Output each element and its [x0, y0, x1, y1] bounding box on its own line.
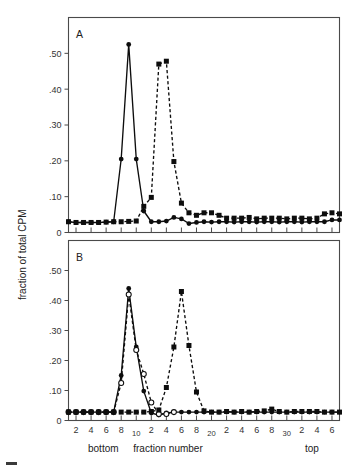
panel-b-frame — [69, 241, 340, 421]
marker-dashed-square — [66, 410, 71, 415]
marker-open-circle — [171, 410, 176, 415]
marker-dashed-square — [164, 59, 169, 64]
marker-dashed-square — [126, 219, 131, 224]
marker-dashed-square — [269, 216, 274, 221]
marker-open-circle — [164, 411, 169, 416]
marker-dashed-square — [171, 345, 176, 350]
series-line-dashed-square — [69, 292, 340, 413]
marker-solid-circle — [322, 219, 327, 224]
marker-solid-circle — [179, 216, 184, 221]
marker-solid-circle — [119, 157, 124, 162]
marker-dashed-square — [186, 343, 191, 348]
marker-dashed-square — [329, 210, 334, 215]
marker-dashed-square — [232, 410, 237, 415]
marker-dashed-square — [209, 210, 214, 215]
marker-dashed-square — [299, 409, 304, 414]
marker-solid-circle — [156, 219, 161, 224]
panel-a-y-ticks — [65, 53, 69, 232]
x-tick-label: 8 — [194, 425, 199, 435]
marker-solid-circle — [179, 410, 184, 415]
marker-dashed-square — [96, 410, 101, 415]
y-axis-title: fraction of total CPM — [17, 209, 28, 300]
x-tick-label: 8 — [119, 425, 124, 435]
series-line-solid-circle — [69, 44, 340, 223]
marker-solid-circle — [149, 219, 154, 224]
marker-dashed-square — [299, 216, 304, 221]
y-tick-label: .40 — [49, 296, 62, 306]
marker-dashed-square — [329, 410, 334, 415]
y-tick-label: .40 — [49, 85, 62, 95]
marker-solid-circle — [141, 389, 146, 394]
panel-a-series — [66, 42, 342, 226]
marker-dashed-square — [111, 410, 116, 415]
marker-dashed-square — [194, 390, 199, 395]
y-tick-label: .20 — [49, 156, 62, 166]
y-tick-label: .20 — [49, 356, 62, 366]
marker-open-circle — [119, 381, 124, 386]
marker-dashed-square — [224, 409, 229, 414]
marker-open-circle — [134, 348, 139, 353]
marker-dashed-square — [74, 410, 79, 415]
marker-dashed-square — [66, 219, 71, 224]
x-tick-label: 6 — [254, 425, 259, 435]
panel-a-x-ticks — [76, 228, 332, 233]
marker-dashed-square — [111, 219, 116, 224]
x-tick-label: 8 — [269, 425, 274, 435]
marker-dashed-square — [277, 216, 282, 221]
marker-dashed-square — [96, 220, 101, 225]
y-tick-label: .30 — [49, 120, 62, 130]
x-axis-right-annotation: top — [305, 443, 319, 454]
marker-dashed-square — [209, 410, 214, 415]
marker-dashed-square — [104, 220, 109, 225]
marker-solid-circle — [187, 410, 192, 415]
marker-dashed-square — [314, 216, 319, 221]
panel-b-x-ticks — [76, 416, 332, 421]
panel-b-x-tick-labels: 246810246820246830246 — [74, 425, 335, 438]
y-tick-label: .10 — [49, 386, 62, 396]
y-tick-label: 0 — [56, 416, 61, 426]
y-tick-label: .30 — [49, 326, 62, 336]
marker-dashed-square — [202, 408, 207, 413]
marker-dashed-square — [232, 216, 237, 221]
x-tick-label: 2 — [74, 425, 79, 435]
marker-dashed-square — [284, 410, 289, 415]
x-tick-label: 2 — [149, 425, 154, 435]
marker-dashed-square — [262, 216, 267, 221]
marker-dashed-square — [239, 216, 244, 221]
marker-dashed-square — [224, 216, 229, 221]
x-tick-label: 4 — [239, 425, 244, 435]
series-line-open-circle — [69, 295, 174, 414]
marker-open-circle — [126, 292, 131, 297]
marker-dashed-square — [156, 62, 161, 67]
marker-solid-circle — [126, 286, 131, 291]
marker-solid-circle — [330, 218, 335, 223]
marker-dashed-square — [141, 204, 146, 209]
marker-dashed-square — [81, 410, 86, 415]
x-tick-label: 4 — [164, 425, 169, 435]
y-tick-label: .50 — [49, 266, 62, 276]
marker-solid-circle — [194, 220, 199, 225]
x-tick-label: 4 — [314, 425, 319, 435]
marker-dashed-square — [307, 216, 312, 221]
marker-solid-circle — [337, 218, 342, 223]
marker-solid-circle — [194, 410, 199, 415]
x-tick-label: 10 — [132, 429, 140, 438]
marker-dashed-square — [89, 410, 94, 415]
marker-open-circle — [149, 400, 154, 405]
marker-solid-circle — [202, 219, 207, 224]
panel-b: B 0.10.20.30.40.50 246810246820246830246 — [49, 241, 342, 438]
marker-dashed-square — [247, 410, 252, 415]
panel-a: A 0.10.20.30.40.50 — [49, 18, 342, 238]
y-tick-label: .10 — [49, 192, 62, 202]
marker-solid-circle — [187, 221, 192, 226]
panel-a-frame — [69, 18, 340, 233]
marker-dashed-square — [164, 385, 169, 390]
marker-dashed-square — [314, 409, 319, 414]
marker-solid-circle — [217, 219, 222, 224]
marker-dashed-square — [194, 213, 199, 218]
marker-solid-circle — [164, 219, 169, 224]
scan-corner-artifact — [6, 462, 17, 465]
marker-dashed-square — [179, 289, 184, 294]
marker-dashed-square — [149, 409, 154, 414]
marker-solid-circle — [171, 215, 176, 220]
